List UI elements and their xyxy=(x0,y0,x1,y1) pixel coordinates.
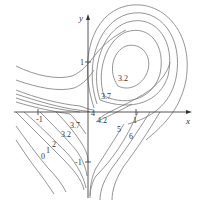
right-branches xyxy=(90,62,170,200)
y-tick-label-neg1: -1 xyxy=(75,158,82,167)
y-axis-arrow-icon xyxy=(86,14,90,20)
x-axis-label: x xyxy=(185,116,190,126)
x-tick-label-1: 1 xyxy=(133,116,137,125)
x-tick-label-neg1: -1 xyxy=(36,115,43,124)
contour-label: 3.2 xyxy=(118,74,128,83)
contour-label: 1 xyxy=(46,146,50,155)
axes xyxy=(14,14,192,198)
contour-label: 3.7 xyxy=(101,92,111,101)
contour-label: 2 xyxy=(52,140,56,149)
contour-plot: y x 1 -1 -1 1 3.2 3.7 4 4.2 5 6 3.7 3.2 … xyxy=(0,0,199,202)
contour-label: 4.2 xyxy=(97,116,107,125)
y-axis-label: y xyxy=(78,13,83,23)
contour-label: 0 xyxy=(41,152,45,161)
contour-label: 3.7 xyxy=(70,121,80,130)
y-tick-label-1: 1 xyxy=(80,58,84,67)
contour-label: 6 xyxy=(129,132,133,141)
x-axis-arrow-icon xyxy=(186,110,192,114)
contour-label: 3.2 xyxy=(61,130,71,139)
contour-label: 5 xyxy=(117,125,121,134)
left-upper-contours xyxy=(16,30,126,114)
contour-label: 4 xyxy=(91,109,95,118)
